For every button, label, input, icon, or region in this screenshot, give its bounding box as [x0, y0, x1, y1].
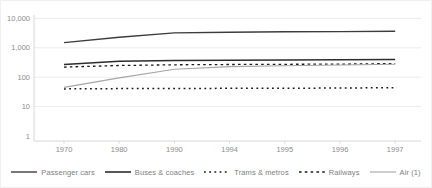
chart-canvas: 10,0001,00010010119701980199019941995199…: [1, 1, 432, 161]
y-tick-label: 100: [17, 73, 30, 82]
legend-label-buses-coaches: Buses & coaches: [135, 168, 194, 177]
x-tick-label: 1990: [166, 145, 183, 154]
legend-swatch-trams-metros: [204, 168, 230, 176]
legend-item-trams-metros: Trams & metros: [204, 168, 288, 177]
legend-item-air-1: Air (1): [370, 168, 421, 177]
legend-label-railways: Railways: [329, 168, 360, 177]
series-line-buses-coaches: [64, 60, 395, 65]
series-line-air-1: [64, 64, 395, 87]
legend-swatch-air-1: [370, 168, 396, 176]
passenger-transport-log-chart: 10,0001,00010010119701980199019941995199…: [0, 0, 432, 188]
series-line-passenger-cars: [64, 31, 395, 42]
chart-legend: Passenger carsBuses & coachesTrams & met…: [1, 161, 431, 183]
legend-swatch-buses-coaches: [105, 168, 131, 176]
legend-swatch-passenger-cars: [11, 168, 37, 176]
legend-label-passenger-cars: Passenger cars: [41, 168, 95, 177]
y-tick-label: 10,000: [7, 14, 30, 23]
y-tick-label: 1: [26, 132, 30, 141]
legend-swatch-railways: [299, 168, 325, 176]
x-tick-label: 1995: [276, 145, 293, 154]
x-tick-label: 1997: [387, 145, 404, 154]
series-line-trams-metros: [64, 88, 395, 89]
x-tick-label: 1994: [221, 145, 238, 154]
legend-label-trams-metros: Trams & metros: [234, 168, 288, 177]
x-tick-label: 1996: [332, 145, 349, 154]
legend-item-passenger-cars: Passenger cars: [11, 168, 95, 177]
legend-label-air-1: Air (1): [400, 168, 421, 177]
y-tick-label: 1,000: [11, 43, 30, 52]
x-tick-label: 1980: [111, 145, 128, 154]
x-tick-label: 1970: [56, 145, 73, 154]
legend-item-railways: Railways: [299, 168, 360, 177]
legend-item-buses-coaches: Buses & coaches: [105, 168, 194, 177]
y-tick-label: 10: [22, 102, 30, 111]
